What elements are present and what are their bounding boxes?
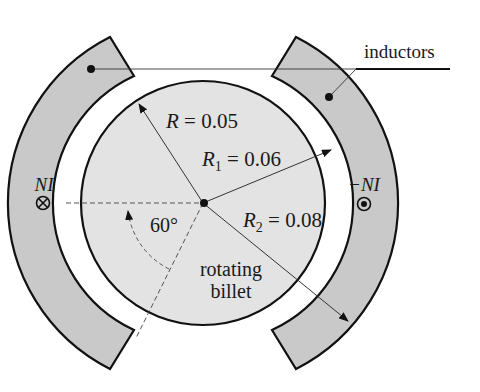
right-current-label: −NI — [348, 174, 381, 195]
inductor-billet-diagram: inductors R = 0.05 R1 = 0.06 R2 = 0.08 6… — [0, 0, 480, 392]
inductors-label: inductors — [364, 41, 435, 62]
radius-R1-label: R1 = 0.06 — [201, 147, 281, 174]
radius-R-label: R = 0.05 — [165, 109, 238, 133]
angle-label: 60° — [150, 214, 178, 236]
leader-dot-left — [87, 65, 95, 73]
center-point — [200, 199, 208, 207]
billet-label-line1: rotating — [200, 258, 262, 281]
left-current-label: NI — [34, 174, 56, 195]
leader-dot-right — [325, 93, 333, 101]
radius-R2-label: R2 = 0.08 — [242, 208, 322, 235]
billet-label-line2: billet — [210, 280, 252, 302]
